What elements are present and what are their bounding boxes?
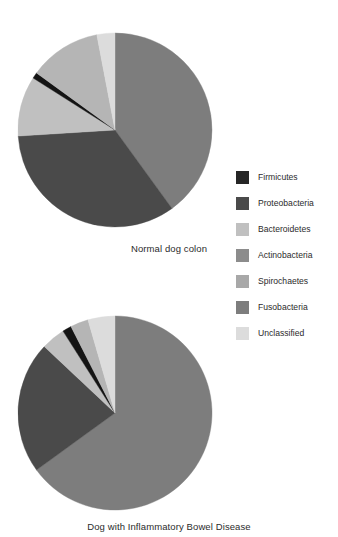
- legend-item-label: Proteobacteria: [258, 199, 314, 208]
- legend-swatch-icon: [236, 223, 249, 236]
- legend-swatch-icon: [236, 197, 249, 210]
- legend-swatch-icon: [236, 171, 249, 184]
- legend-swatch-icon: [236, 249, 249, 262]
- legend-swatch-icon: [236, 327, 249, 340]
- figure-canvas: Normal dog colon Dog with Inflammatory B…: [0, 0, 338, 537]
- legend-item: Fusobacteria: [236, 294, 314, 320]
- legend-swatch-icon: [236, 301, 249, 314]
- legend-item-label: Firmicutes: [258, 173, 298, 182]
- legend-item-label: Fusobacteria: [258, 303, 308, 312]
- legend-item: Bacteroidetes: [236, 216, 314, 242]
- legend-item-label: Actinobacteria: [258, 251, 312, 260]
- legend-item: Firmicutes: [236, 164, 314, 190]
- legend-item-label: Spirochaetes: [258, 277, 308, 286]
- legend-item: Unclassified: [236, 320, 314, 346]
- legend-item: Proteobacteria: [236, 190, 314, 216]
- legend: FirmicutesProteobacteriaBacteroidetesAct…: [236, 164, 314, 346]
- caption-dog-with-ibd: Dog with Inflammatory Bowel Disease: [0, 521, 338, 532]
- legend-item-label: Bacteroidetes: [258, 225, 311, 234]
- legend-item-label: Unclassified: [258, 329, 304, 338]
- legend-swatch-icon: [236, 275, 249, 288]
- legend-item: Actinobacteria: [236, 242, 314, 268]
- legend-item: Spirochaetes: [236, 268, 314, 294]
